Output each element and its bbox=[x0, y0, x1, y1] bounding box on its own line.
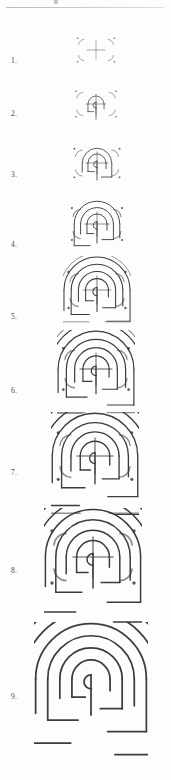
horizontal-rule bbox=[6, 7, 164, 8]
step-number-label: 3. bbox=[11, 170, 17, 179]
labyrinth-figure bbox=[70, 136, 124, 200]
step-number-label: 7. bbox=[11, 468, 17, 477]
labyrinth-svg bbox=[51, 412, 139, 516]
step-number-label: 1. bbox=[11, 56, 17, 65]
labyrinth-svg bbox=[57, 330, 135, 422]
labyrinth-figure bbox=[67, 194, 127, 265]
labyrinth-svg bbox=[34, 622, 148, 757]
labyrinth-svg bbox=[44, 508, 142, 624]
labyrinth-figure bbox=[51, 412, 139, 516]
labyrinth-figure bbox=[63, 256, 131, 336]
step-number-label: 6. bbox=[11, 386, 17, 395]
labyrinth-svg bbox=[70, 136, 124, 200]
step-number-label: 9. bbox=[11, 692, 17, 701]
step-number-label: 8. bbox=[11, 566, 17, 575]
step-number-label: 2. bbox=[11, 109, 17, 118]
step-number-label: 5. bbox=[11, 312, 17, 321]
labyrinth-figure bbox=[72, 80, 120, 137]
labyrinth-figure bbox=[57, 330, 135, 422]
labyrinth-figure bbox=[44, 508, 142, 624]
labyrinth-svg bbox=[63, 256, 131, 336]
labyrinth-figure bbox=[74, 28, 118, 80]
labyrinth-svg bbox=[67, 194, 127, 265]
page-top-mark bbox=[54, 0, 58, 4]
page-canvas: 1.2.3.4.5.6.7.8.9. bbox=[0, 0, 171, 780]
labyrinth-svg bbox=[74, 28, 118, 80]
labyrinth-figure bbox=[34, 622, 148, 757]
labyrinth-svg bbox=[72, 80, 120, 137]
step-number-label: 4. bbox=[11, 240, 17, 249]
